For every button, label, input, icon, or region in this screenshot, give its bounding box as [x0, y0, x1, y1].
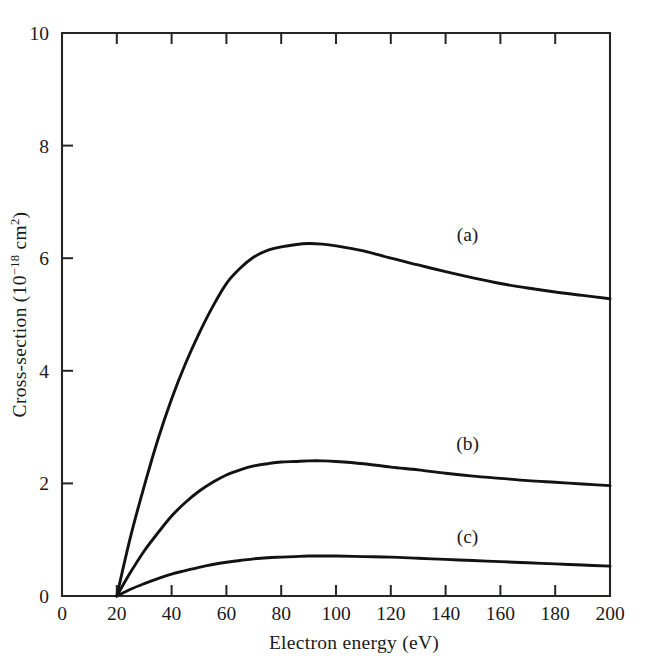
curve-b	[117, 461, 610, 596]
ticks-group	[62, 33, 610, 596]
x-tick-label-60: 60	[217, 603, 237, 624]
x-tick-label-180: 180	[541, 603, 570, 624]
x-axis-title: Electron energy (eV)	[269, 632, 439, 654]
y-tick-label-10: 10	[30, 23, 50, 44]
y-axis-title: Cross-section (10−18 cm2)	[8, 212, 31, 418]
x-tick-label-160: 160	[486, 603, 515, 624]
chart-figure: 0204060801001201401601802000246810Electr…	[0, 0, 646, 661]
labels-group: 0204060801001201401601802000246810Electr…	[8, 23, 625, 654]
axes-group	[62, 33, 610, 596]
x-tick-label-40: 40	[162, 603, 182, 624]
x-tick-label-100: 100	[321, 603, 350, 624]
axis-frame	[62, 33, 610, 596]
curve-label-b: (b)	[456, 433, 479, 455]
x-tick-label-80: 80	[271, 603, 291, 624]
x-tick-label-0: 0	[57, 603, 67, 624]
y-tick-label-0: 0	[39, 586, 49, 607]
y-tick-label-6: 6	[39, 248, 49, 269]
x-tick-label-200: 200	[595, 603, 624, 624]
x-tick-label-120: 120	[376, 603, 405, 624]
y-tick-label-2: 2	[39, 473, 49, 494]
curve-a	[117, 244, 610, 596]
curve-c	[117, 556, 610, 596]
y-tick-label-8: 8	[39, 136, 49, 157]
curves-group	[117, 244, 610, 596]
x-tick-label-140: 140	[431, 603, 460, 624]
y-tick-label-4: 4	[39, 361, 49, 382]
curve-label-c: (c)	[457, 526, 479, 548]
chart-plot-area: 0204060801001201401601802000246810Electr…	[0, 0, 646, 661]
curve-label-a: (a)	[457, 224, 479, 246]
x-tick-label-20: 20	[107, 603, 127, 624]
